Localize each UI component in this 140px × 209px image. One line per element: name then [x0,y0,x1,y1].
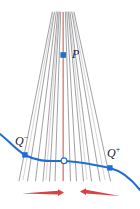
label-p: P [72,48,79,60]
label-q-plus: Q+ [107,146,120,159]
pencil-of-lines [19,12,111,181]
label-q-minus: Q− [15,134,28,147]
curve-marker-center-hollow [61,158,67,164]
label-q-plus-base: Q [107,146,116,160]
direction-arrows [22,188,120,196]
label-q-plus-superscript: + [116,145,121,154]
pencil-line-3 [36,12,57,181]
pencil-line-10 [70,12,92,181]
vertex-marker-p [60,52,66,58]
geometry-figure: P Q− Q+ [0,0,140,209]
curve-marker-q-minus [22,152,27,157]
label-q-minus-base: Q [15,134,24,148]
pencil-line-12 [74,12,111,181]
right-arrow [80,188,120,196]
label-q-minus-superscript: − [24,133,29,142]
figure-canvas [0,0,140,209]
label-p-text: P [72,47,79,61]
left-arrow [22,189,64,196]
curve-marker-q-plus [107,165,112,170]
pencil-line-aux-2 [46,13,59,180]
pencil-line-aux-4 [73,13,105,180]
